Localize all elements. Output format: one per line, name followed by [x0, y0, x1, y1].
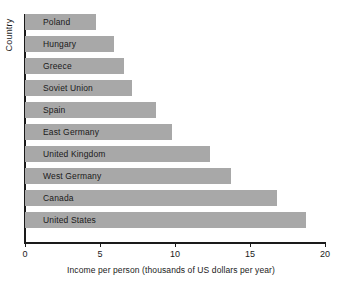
x-axis-tick — [100, 242, 101, 247]
bar-category-label: Greece — [43, 58, 72, 74]
bar-category-label: Canada — [43, 190, 74, 206]
bar-category-label: Spain — [43, 102, 66, 118]
bar-category-label: Poland — [43, 14, 70, 30]
bar-category-label: West Germany — [43, 168, 101, 184]
bar-category-label: Hungary — [43, 36, 76, 52]
y-axis-title: Country — [0, 0, 18, 70]
x-axis-tick-label: 10 — [170, 249, 180, 259]
x-axis-tick — [175, 242, 176, 247]
bar-category-label: Soviet Union — [43, 80, 93, 96]
bar — [25, 58, 124, 74]
bar-category-label: East Germany — [43, 124, 99, 140]
y-axis-title-text: Country — [4, 19, 14, 52]
bar-category-label: United Kingdom — [43, 146, 106, 162]
x-axis-tick — [250, 242, 251, 247]
bar-category-label: United States — [43, 212, 96, 228]
x-axis-tick-label: 5 — [97, 249, 102, 259]
x-axis-title: Income per person (thousands of US dolla… — [0, 265, 342, 275]
x-axis-tick — [25, 242, 26, 247]
bar-chart-figure: Country PolandHungaryGreeceSoviet UnionS… — [0, 0, 342, 287]
x-axis-tick-label: 15 — [245, 249, 255, 259]
x-axis-tick-label: 0 — [22, 249, 27, 259]
x-axis-tick-label: 20 — [320, 249, 330, 259]
plot-area: PolandHungaryGreeceSoviet UnionSpainEast… — [25, 14, 325, 242]
x-axis-tick — [325, 242, 326, 247]
